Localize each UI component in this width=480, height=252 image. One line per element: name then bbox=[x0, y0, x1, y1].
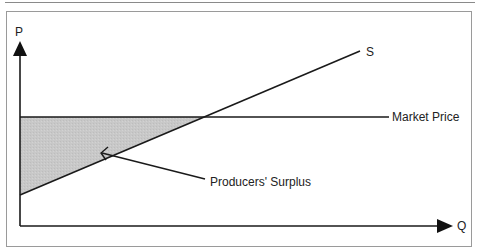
market-price-label: Market Price bbox=[392, 111, 459, 123]
price-axis-arrow-icon bbox=[13, 41, 27, 56]
supply-curve-label: S bbox=[366, 46, 374, 58]
quantity-axis-label: Q bbox=[457, 220, 466, 232]
surplus-pointer-line bbox=[102, 153, 205, 179]
quantity-axis-arrow-icon bbox=[437, 219, 453, 233]
price-axis-label: P bbox=[15, 26, 23, 38]
supply-diagram bbox=[0, 0, 480, 252]
producers-surplus-label: Producers' Surplus bbox=[210, 176, 311, 188]
